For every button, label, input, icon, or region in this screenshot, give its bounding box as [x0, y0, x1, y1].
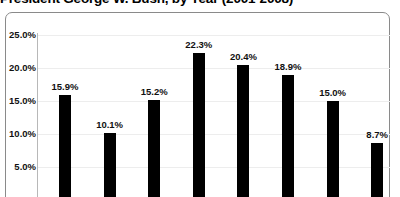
bar [193, 53, 205, 197]
bar-value-label: 8.7% [360, 129, 394, 140]
bar [327, 101, 339, 197]
chart-screenshot: President George W. Bush, by Year (2001-… [0, 0, 400, 197]
y-axis-tick-label: 5.0% [4, 162, 36, 172]
bar [282, 75, 294, 197]
bar-value-label: 20.4% [226, 51, 260, 62]
bar-value-label: 10.1% [93, 119, 127, 130]
bar-value-label: 15.0% [316, 87, 350, 98]
gridline [38, 35, 390, 36]
bar [104, 133, 116, 197]
bar [237, 65, 249, 197]
bar-value-label: 18.9% [271, 61, 305, 72]
chart-title: President George W. Bush, by Year (2001-… [0, 0, 400, 6]
y-axis-tick-label: 20.0% [4, 63, 36, 73]
y-axis-tick-label: 15.0% [4, 96, 36, 106]
bar [59, 95, 71, 197]
bar [148, 100, 160, 197]
bar [371, 143, 383, 197]
bar-value-label: 15.2% [137, 86, 171, 97]
y-axis-tick-label: 25.0% [4, 30, 36, 40]
gridline [38, 68, 390, 69]
y-axis-line [37, 33, 38, 197]
bar-value-label: 22.3% [182, 39, 216, 50]
bar-value-label: 15.9% [48, 81, 82, 92]
y-axis-tick-label: 10.0% [4, 129, 36, 139]
